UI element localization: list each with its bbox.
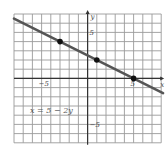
x-axis-arrow-icon [160, 76, 164, 80]
plotted-line [14, 19, 163, 94]
equation-label: x = 5 − 2y [30, 106, 73, 115]
graph-line [14, 19, 163, 94]
y-axis-arrow-icon [86, 10, 90, 14]
x-tick-label: −5 [39, 80, 50, 88]
y-tick-label: 5 [90, 29, 95, 37]
coordinate-plane: xy−555−5 x = 5 − 2y [0, 0, 168, 153]
data-point [57, 39, 63, 45]
y-tick-label: −5 [90, 121, 101, 129]
x-axis-label: x [160, 81, 164, 89]
data-point [94, 57, 100, 63]
data-point [131, 76, 137, 82]
x-tick-label: 5 [131, 80, 136, 88]
